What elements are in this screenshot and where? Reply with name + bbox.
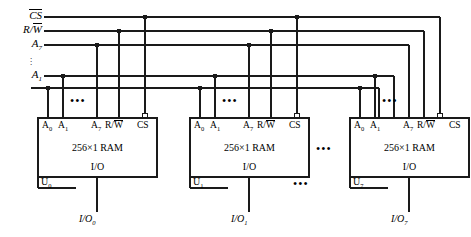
junction-u0-a7 — [95, 43, 99, 47]
pin-label-u7-a1: A1 — [370, 121, 380, 132]
pin-label-u0-a7: A7 — [91, 121, 101, 132]
junction-u1-a1 — [213, 74, 217, 78]
pin-label-u0-cs: CS — [137, 121, 149, 131]
chip-ref-u0: U0 — [41, 177, 51, 190]
chip-ref-u1: U1 — [193, 177, 203, 190]
pin-label-u1-a7: A7 — [243, 121, 253, 132]
pin-label-u7-a0: A0 — [354, 121, 364, 132]
block-ellipsis-mid: ••• — [316, 143, 332, 155]
chip-io-label-u1: I/O — [190, 162, 309, 172]
bus-label-cs: CS — [2, 10, 42, 21]
junction-u7-a1 — [373, 74, 377, 78]
chip-io-label-u0: I/O — [38, 162, 157, 172]
bus-label-a7: A7 — [2, 38, 42, 52]
bus-label-vertical-dots: . . . — [22, 55, 40, 65]
pin-label-u1-a0: A0 — [194, 121, 204, 132]
pin-label-u1-a1: A1 — [210, 121, 220, 132]
junction-u1-a0 — [198, 86, 202, 90]
pin-ellipsis-u7: ••• — [382, 95, 398, 107]
junction-u0-a1 — [61, 74, 65, 78]
pin-ellipsis-u1: ••• — [222, 95, 238, 107]
chip-body-label-u0: 256×1 RAM — [38, 143, 157, 153]
output-label-io0: I/O0 — [79, 214, 96, 227]
chip-body-label-u7: 256×1 RAM — [350, 143, 469, 153]
rw-overbar-w: W — [33, 24, 42, 35]
pin-label-u0-a0: A0 — [42, 121, 52, 132]
chip-io-label-u7: I/O — [350, 162, 469, 172]
bus-label-rw: R/W — [2, 24, 42, 35]
junction-u1-rw — [269, 29, 273, 33]
output-label-io1: I/O1 — [231, 214, 248, 227]
rw-text: R/W — [23, 23, 42, 35]
junction-u0-a0 — [46, 86, 50, 90]
pin-label-u0-rw: R/W — [105, 121, 123, 131]
junction-u0-cs — [143, 15, 147, 19]
junction-u1-a7 — [247, 43, 251, 47]
junction-u0-rw — [117, 29, 121, 33]
chip-ref-u7: U7 — [353, 177, 363, 190]
pin-label-u1-rw: R/W — [257, 121, 275, 131]
pin-ellipsis-u0: ••• — [70, 95, 86, 107]
cs-bubble-u0 — [142, 113, 147, 118]
diagram-wires — [0, 0, 471, 237]
junction-u1-cs — [295, 15, 299, 19]
ram-array-diagram: CS R/W A7 . . . A1 ••• A0 A1 A7 R/W CS 2… — [0, 0, 471, 237]
cs-bubble-u7 — [437, 113, 442, 118]
block-ellipsis-low: ••• — [293, 178, 309, 190]
pin-label-u1-cs: CS — [289, 121, 301, 131]
cs-bubble-u1 — [294, 113, 299, 118]
pin-label-u7-a7: A7 — [403, 121, 413, 132]
pin-label-u7-cs: CS — [449, 121, 461, 131]
output-label-io7: I/O7 — [391, 214, 408, 227]
bus-label-a1: A1 — [2, 69, 42, 83]
junction-u7-a0 — [358, 86, 362, 90]
chip-body-label-u1: 256×1 RAM — [190, 143, 309, 153]
pin-label-u0-a1: A1 — [58, 121, 68, 132]
pin-label-u7-rw: R/W — [417, 121, 435, 131]
